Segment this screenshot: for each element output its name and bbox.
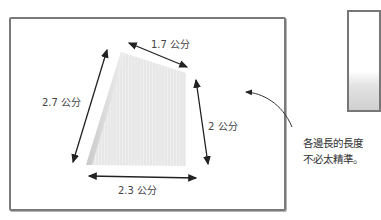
- label-right-length: 2 公分: [208, 118, 238, 133]
- label-left-length: 2.7 公分: [42, 94, 81, 109]
- arrow-right: [196, 80, 208, 164]
- note-line-1: 各邊長的長度: [303, 135, 363, 151]
- note-text: 各邊長的長度 不必太精準。: [303, 135, 363, 167]
- label-top-length: 1.7 公分: [151, 36, 190, 51]
- note-line-2: 不必太精準。: [303, 151, 363, 167]
- label-bottom-length: 2.3 公分: [118, 182, 157, 197]
- pointer-arrow: [246, 92, 292, 127]
- arrow-bottom: [89, 176, 196, 178]
